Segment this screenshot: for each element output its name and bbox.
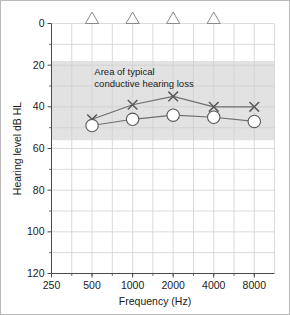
x-tick-label: 2000 xyxy=(161,279,185,291)
x-tick-label: 1000 xyxy=(121,279,145,291)
marker-triangle xyxy=(126,12,139,24)
y-axis-title: Hearing level dB HL xyxy=(11,102,23,196)
y-tick-label: 100 xyxy=(27,225,45,237)
marker-circle xyxy=(126,113,138,125)
marker-triangle xyxy=(85,12,98,24)
x-tick-label: 4000 xyxy=(202,279,226,291)
x-tick-label: 250 xyxy=(43,279,61,291)
marker-circle xyxy=(208,111,220,123)
marker-circle xyxy=(167,109,179,121)
y-tick-label: 60 xyxy=(33,142,45,154)
x-axis-title: Frequency (Hz) xyxy=(119,295,191,307)
y-tick-label: 40 xyxy=(33,100,45,112)
y-tick-label: 80 xyxy=(33,184,45,196)
x-tick-label: 8000 xyxy=(243,279,267,291)
band-label-line-2: conductive hearing loss xyxy=(94,78,194,89)
band-label-line-1: Area of typical xyxy=(94,66,154,77)
audiogram-chart: 0204060801001202505001000200040008000Fre… xyxy=(1,1,290,315)
y-tick-label: 0 xyxy=(39,17,45,29)
audiogram-figure: 0204060801001202505001000200040008000Fre… xyxy=(0,0,290,315)
marker-circle xyxy=(86,119,98,131)
marker-triangle xyxy=(167,12,180,24)
shaded-band-region xyxy=(52,61,275,140)
marker-triangle xyxy=(207,12,220,24)
x-tick-label: 500 xyxy=(83,279,101,291)
y-tick-label: 120 xyxy=(27,267,45,279)
y-tick-label: 20 xyxy=(33,59,45,71)
marker-circle xyxy=(248,115,260,127)
